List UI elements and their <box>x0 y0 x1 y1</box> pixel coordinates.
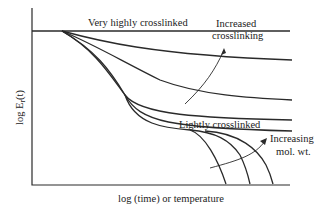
label-increased-1: Increased <box>216 18 257 29</box>
label-mol-wt-1: Increasing <box>270 133 314 144</box>
label-mol-wt-2: mol. wt. <box>276 146 311 157</box>
curve-lightly-crosslinked <box>62 31 292 131</box>
increased-crosslinking-arrow <box>185 50 224 104</box>
curve-crosslinked-low <box>62 31 292 120</box>
y-axis-label: log Er(t) <box>14 90 27 125</box>
svg-text:log Er(t): log Er(t) <box>14 90 27 125</box>
label-increased-2: crosslinking <box>212 30 264 41</box>
arrowhead-icon <box>260 138 267 145</box>
label-very-highly-crosslinked: Very highly crosslinked <box>88 17 188 28</box>
curve-mol-wt-medium <box>190 130 250 184</box>
curve-mol-wt-low <box>125 95 226 184</box>
arrowhead-icon <box>221 48 226 55</box>
viscoelastic-diagram: Very highly crosslinked Increased crossl… <box>0 0 332 208</box>
x-axis-label: log (time) or temperature <box>118 193 224 205</box>
label-lightly-crosslinked: Lightly crosslinked <box>179 119 261 130</box>
curve-crosslinked-medium <box>62 31 292 100</box>
